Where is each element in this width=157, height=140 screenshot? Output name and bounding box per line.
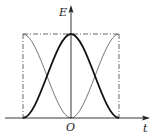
y-axis-label: E [58, 6, 67, 19]
x-axis-label: t [143, 122, 148, 135]
origin-label: O [66, 121, 75, 134]
energy-time-diagram: E O t [0, 0, 157, 140]
